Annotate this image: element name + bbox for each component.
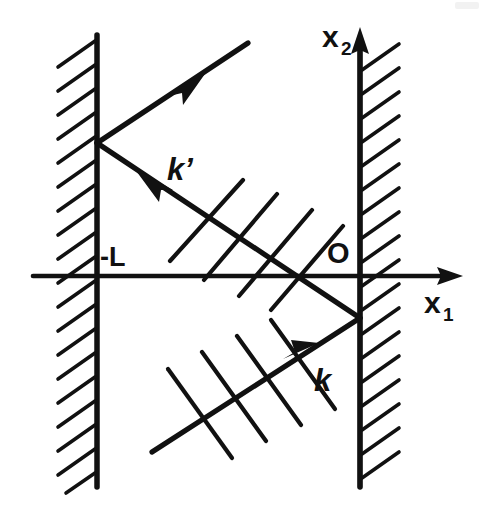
x2-axis-label: x [322, 20, 339, 53]
left-wall-hatching [58, 41, 95, 493]
x2-axis-arrowhead [351, 27, 369, 54]
x1-axis-label-subscript: 1 [443, 304, 454, 325]
scan-artifact [455, 2, 479, 9]
reflected-ray-k-prime [97, 143, 360, 318]
wall-position-label: -L [100, 242, 125, 272]
incident-wavevector-label: k [314, 363, 333, 398]
outgoing-ray-arrowhead [169, 71, 207, 105]
x1-axis-label: x [424, 286, 441, 319]
reflected-wavevector-label: k’ [167, 152, 193, 187]
outgoing-ray [97, 43, 248, 143]
reflection-diagram: x 2 x 1 O -L k’ k [0, 0, 491, 518]
right-wall-hatching [362, 44, 399, 478]
origin-label: O [327, 237, 350, 269]
right-wall [360, 40, 399, 487]
left-wall [58, 35, 97, 493]
x2-axis-label-subscript: 2 [341, 38, 352, 59]
